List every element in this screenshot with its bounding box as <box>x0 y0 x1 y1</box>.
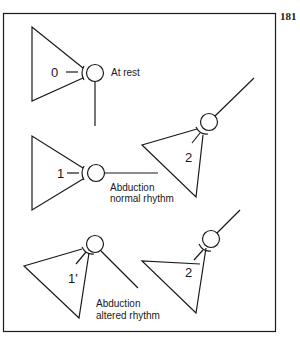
state-1-caption-line1: Abduction <box>110 182 154 193</box>
scapula-state-2-altered <box>142 210 240 313</box>
page-number: 181 <box>280 10 297 22</box>
state-1-prime-number: 1' <box>68 272 78 285</box>
state-1-prime-caption-line1: Abduction <box>96 298 140 309</box>
state-1-prime-caption-line2: altered rhythm <box>96 310 160 321</box>
scapula-state-0 <box>32 27 104 126</box>
scapula-state-2-normal <box>142 78 254 197</box>
state-2-altered-number: 2 <box>185 266 192 279</box>
state-1-caption-line2: normal rhythm <box>110 193 174 204</box>
state-1-number: 1 <box>57 167 64 180</box>
state-0-number: 0 <box>51 66 58 79</box>
state-2-normal-number: 2 <box>185 151 192 164</box>
state-0-caption: At rest <box>111 67 140 78</box>
diagram-canvas <box>0 0 300 341</box>
